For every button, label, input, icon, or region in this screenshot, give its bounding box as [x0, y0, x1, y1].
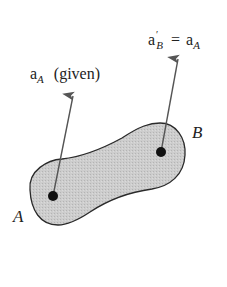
- rigid-body-acceleration-diagram: aA (given) a′B = aA A B: [0, 0, 227, 287]
- lhs-vector-symbol: a: [148, 31, 155, 48]
- point-a-dot: [48, 191, 58, 201]
- rigid-body-shape: [30, 123, 185, 225]
- lhs-subscript: B: [156, 39, 163, 51]
- label-equation: a′B = aA: [148, 32, 200, 48]
- label-point-a: A: [13, 208, 23, 225]
- equals-sign: =: [171, 31, 180, 48]
- given-note: (given): [54, 65, 100, 82]
- label-a-a-given: aA (given): [30, 66, 100, 82]
- label-point-b: B: [192, 124, 202, 141]
- point-b-dot: [156, 147, 166, 157]
- rhs-subscript: A: [193, 39, 200, 51]
- vector-subscript: A: [37, 73, 44, 85]
